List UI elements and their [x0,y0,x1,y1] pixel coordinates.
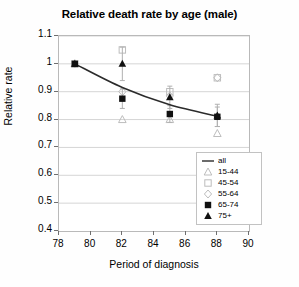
marker-square-filled [119,95,125,101]
legend-item: 45-54 [200,177,258,188]
x-axis-tick [90,231,91,235]
marker-square-filled [167,111,173,117]
y-axis-tick [54,91,58,92]
data-marker-square-filled [167,111,173,117]
data-marker-square-filled [119,95,125,101]
y-axis-title: Relative rate [2,36,14,156]
legend-marker-triangle-filled-icon [200,211,216,221]
trend-line-all [75,64,218,116]
marker-square-open [205,179,211,185]
x-axis-tick-label: 90 [228,238,268,249]
legend-label: 75+ [216,211,232,220]
legend-label: 65-74 [216,200,238,209]
marker-triangle-open [214,130,222,137]
y-axis-tick-label: 0.5 [0,195,52,206]
chart-legend: all15-4445-5455-6465-7475+ [196,152,262,225]
legend-label: 15-44 [216,167,238,176]
x-axis-tick [58,231,59,235]
marker-triangle-filled [204,212,212,219]
x-axis-tick [153,231,154,235]
legend-label: 55-64 [216,189,238,198]
legend-item: 65-74 [200,199,258,210]
y-axis-tick-label: 0.6 [0,167,52,178]
legend-marker-square-open-icon [200,178,216,188]
marker-triangle-open [204,168,212,175]
x-axis-tick [216,231,217,235]
data-marker-square-open [205,179,211,185]
marker-diamond-open [204,190,211,198]
chart-title: Relative death rate by age (male) [0,8,299,20]
legend-item: all [200,155,258,166]
legend-marker-triangle-open-icon [200,167,216,177]
y-axis-tick [54,174,58,175]
legend-item: 75+ [200,210,258,221]
legend-marker-diamond-open-icon [200,189,216,199]
y-axis-tick-label: 1.1 [0,28,52,39]
legend-marker-square-filled-icon [200,200,216,210]
y-axis-tick-label: 0.4 [0,223,52,234]
y-axis-tick-label: 1 [0,56,52,67]
x-axis-title: Period of diagnosis [58,258,250,270]
legend-label: all [216,156,226,165]
y-axis-tick-label: 0.9 [0,84,52,95]
legend-item: 55-64 [200,188,258,199]
data-marker-triangle-open [214,130,222,137]
data-marker-square-filled [205,201,211,207]
data-marker-triangle-open [204,168,212,175]
y-axis-tick [54,119,58,120]
chart-figure: Relative death rate by age (male) Relati… [0,0,299,287]
x-axis-tick [248,231,249,235]
data-marker-triangle-filled [204,212,212,219]
x-axis-tick [121,231,122,235]
legend-label: 45-54 [216,178,238,187]
y-axis-tick [54,63,58,64]
legend-marker-line-icon [200,156,216,166]
y-axis-tick-label: 0.8 [0,112,52,123]
y-axis-tick [54,35,58,36]
y-axis-tick [54,202,58,203]
x-axis-tick [185,231,186,235]
legend-item: 15-44 [200,166,258,177]
data-marker-diamond-open [204,190,211,198]
marker-square-filled [205,201,211,207]
y-axis-tick-label: 0.7 [0,139,52,150]
y-axis-tick [54,146,58,147]
